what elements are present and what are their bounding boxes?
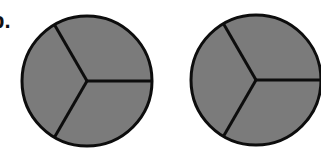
circle-2-group <box>191 15 321 145</box>
fraction-circles-figure <box>0 0 321 162</box>
circle-1-group <box>22 16 152 146</box>
